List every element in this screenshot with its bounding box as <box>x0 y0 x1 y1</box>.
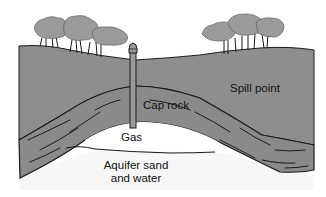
gas-label: Gas <box>121 131 142 144</box>
diagram-canvas: Spill point Cap rock Gas Aquifer sand an… <box>0 0 326 197</box>
aquifer-label: Aquifer sand and water <box>96 159 176 185</box>
cap-rock-label: Cap rock <box>143 99 189 112</box>
spill-point-label: Spill point <box>230 82 280 95</box>
wellhead-cap-icon <box>129 43 137 53</box>
well-pipe <box>129 43 137 128</box>
aquifer-label-line2: and water <box>96 172 176 185</box>
aquifer-label-line1: Aquifer sand <box>96 159 176 172</box>
